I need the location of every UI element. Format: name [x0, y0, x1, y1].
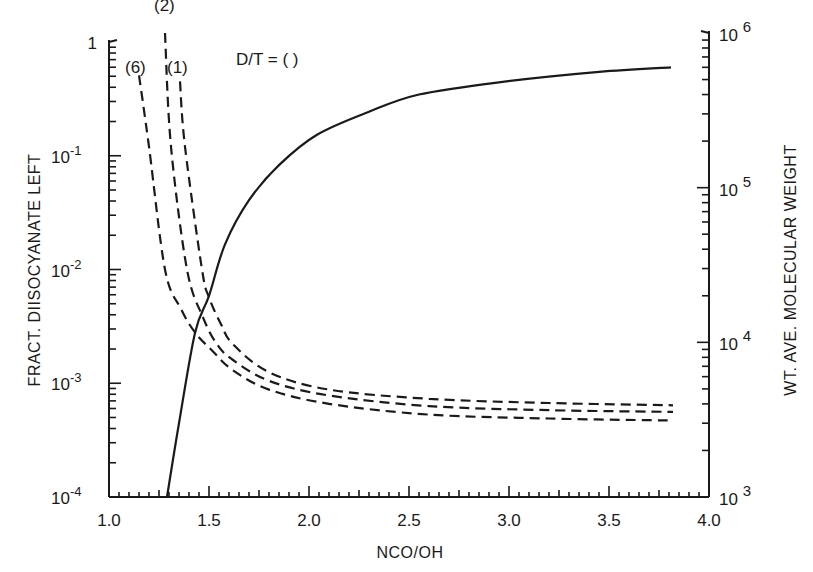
y-left-tick-label: 10-3: [51, 370, 81, 394]
plot-area: [139, 33, 673, 497]
x-tick-label: 2.0: [297, 511, 321, 530]
y-axis-left-title: FRACT. DIISOCYANATE LEFT: [26, 154, 43, 387]
y-right-tick-label: 10 4: [719, 327, 751, 354]
y-left-tick-label: 1: [88, 34, 97, 53]
y-right-tick-label: 10 6: [719, 18, 751, 45]
y-right-tick-label: 10 5: [719, 173, 751, 200]
x-tick-label: 2.5: [397, 511, 421, 530]
diisocyanate-curve: [139, 75, 673, 420]
chart: 1.01.52.02.53.03.54.0110-110-210-310-410…: [0, 0, 813, 572]
y-right-tick-label: 10 3: [719, 482, 751, 509]
x-axis-title: NCO/OH: [377, 544, 444, 561]
x-tick-label: 3.5: [597, 511, 621, 530]
x-tick-label: 3.0: [497, 511, 521, 530]
series-label: (6): [125, 58, 146, 77]
series-label: (1): [167, 58, 188, 77]
series-labels: (6)(2)(1): [125, 0, 188, 77]
y-left-tick-label: 10-2: [51, 257, 81, 281]
diisocyanate-curve: [165, 33, 673, 412]
x-tick-label: 1.0: [97, 511, 121, 530]
y-left-tick-label: 10-4: [51, 484, 81, 508]
molecular-weight-curve: [167, 67, 671, 497]
y-axis-right-title: WT. AVE. MOLECULAR WEIGHT: [782, 144, 799, 395]
y-axis-right-cap: [701, 31, 709, 33]
dt-annotation: D/T = ( ): [236, 50, 299, 69]
series-label: (2): [154, 0, 175, 15]
x-tick-label: 1.5: [197, 511, 221, 530]
axes: 1.01.52.02.53.03.54.0110-110-210-310-410…: [51, 18, 751, 530]
x-tick-label: 4.0: [697, 511, 721, 530]
y-axis-left-cap: [109, 40, 117, 42]
y-left-tick-label: 10-1: [51, 143, 81, 167]
diisocyanate-curve: [180, 81, 673, 405]
